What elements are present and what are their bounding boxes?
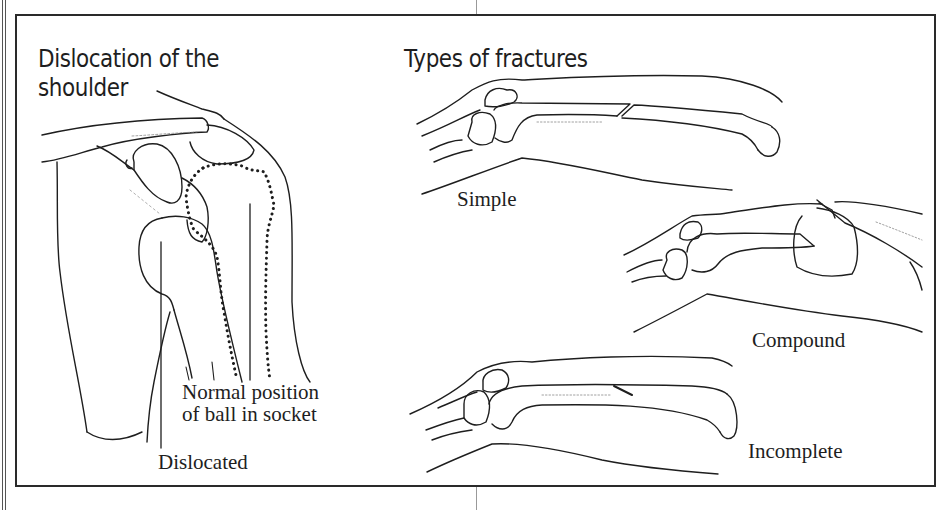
dislocated-label: Dislocated [158, 451, 248, 473]
simple-fracture-illustration [417, 75, 782, 194]
column-divider-top [476, 0, 477, 14]
column-divider-bottom [476, 487, 477, 510]
compound-fracture-illustration [624, 200, 922, 332]
fracture-label-compound: Compound [752, 329, 845, 351]
page-edge-line [2, 0, 3, 510]
shoulder-title-line1: Dislocation of the [38, 45, 219, 73]
fractures-title: Types of fractures [404, 45, 588, 73]
illustration-canvas [17, 16, 938, 489]
figure-frame: Dislocation of the shoulder Normal posit… [15, 14, 936, 487]
normal-position-label-line1: Normal position [182, 381, 319, 403]
fracture-label-simple: Simple [457, 188, 517, 210]
incomplete-fracture-illustration [410, 356, 737, 474]
fracture-label-incomplete: Incomplete [748, 440, 842, 462]
page-edge-line [5, 0, 6, 510]
normal-position-label-line2: of ball in socket [182, 403, 317, 425]
shoulder-title-line2: shoulder [38, 74, 128, 102]
